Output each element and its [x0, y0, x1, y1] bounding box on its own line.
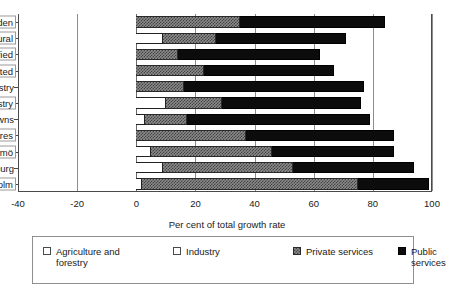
bar-segment-pub — [216, 33, 346, 44]
bar-segment-ind — [136, 97, 166, 108]
gridline-100 — [432, 14, 433, 191]
category-label: Gothenbourg — [0, 162, 16, 173]
bar-segment-pub — [272, 146, 393, 157]
bar-segment-ind — [136, 162, 163, 173]
legend-label: Industry — [186, 246, 220, 257]
bar-row: Regional centres — [18, 127, 432, 143]
category-label: Small scale industry — [0, 96, 16, 109]
chart-root: Average SwedenRuralSmall and diversified… — [0, 0, 454, 292]
category-label: Small and diversified — [0, 48, 16, 61]
x-tick-label--20: -20 — [70, 198, 84, 209]
stacked-bar — [136, 33, 346, 44]
x-tick-label-100: 100 — [424, 198, 440, 209]
legend-items: Agriculture and forestryIndustryPrivate … — [33, 237, 413, 283]
bar-segment-priv — [145, 114, 186, 125]
legend-item-pub[interactable]: Public services — [398, 246, 446, 268]
pub-swatch-icon — [398, 247, 406, 255]
bar-segment-priv — [151, 146, 272, 157]
category-label: Stockholm — [0, 177, 16, 190]
agri-swatch-icon — [43, 247, 51, 255]
bar-row: Large scale industry — [18, 79, 432, 95]
x-tick-label-20: 20 — [190, 198, 201, 209]
bar-segment-pub — [178, 49, 320, 60]
bar-rows: Average SwedenRuralSmall and diversified… — [18, 14, 432, 191]
bar-segment-pub — [222, 97, 361, 108]
stacked-bar — [136, 97, 361, 108]
bar-segment-priv — [136, 130, 245, 141]
category-label: Average Sweden — [0, 16, 16, 29]
chart-legend: Agriculture and forestryIndustryPrivate … — [32, 236, 414, 284]
x-tick-label--40: -40 — [11, 198, 25, 209]
bar-row: Average Sweden — [18, 14, 432, 30]
x-axis-tick-labels: -40-20020406080100 — [18, 198, 432, 214]
plot-area: Average SwedenRuralSmall and diversified… — [18, 14, 432, 192]
legend-label: Public services — [411, 246, 446, 268]
bar-segment-priv — [163, 33, 216, 44]
priv-swatch-icon — [293, 247, 301, 255]
bar-row: Malmö — [18, 143, 432, 159]
stacked-bar — [136, 49, 319, 60]
bar-segment-priv — [163, 162, 293, 173]
x-tick-label-0: 0 — [134, 198, 139, 209]
category-label: Large scale industry — [0, 81, 16, 92]
stacked-bar — [136, 114, 370, 125]
ind-swatch-icon — [173, 247, 181, 255]
bar-segment-priv — [136, 65, 204, 76]
bar-segment-pub — [204, 65, 334, 76]
bar-segment-priv — [136, 16, 240, 27]
category-label: Malmö — [0, 145, 16, 158]
bar-row: Stockholm — [18, 176, 432, 192]
x-tick-label-60: 60 — [308, 198, 319, 209]
bar-segment-priv — [142, 178, 358, 189]
category-label: Rural — [0, 32, 16, 45]
x-axis-title: Per cent of total growth rate — [0, 219, 454, 230]
bar-segment-priv — [136, 81, 183, 92]
legend-item-agri[interactable]: Agriculture and forestry — [43, 246, 128, 268]
stacked-bar — [136, 65, 334, 76]
legend-label: Private services — [306, 246, 373, 257]
legend-item-priv[interactable]: Private services — [293, 246, 373, 257]
stacked-bar — [136, 81, 364, 92]
stacked-bar — [136, 178, 429, 189]
stacked-bar — [136, 130, 393, 141]
x-tick-label-80: 80 — [368, 198, 379, 209]
stacked-bar — [136, 162, 414, 173]
bar-row: Sparsely populated — [18, 63, 432, 79]
category-label: Regional centres — [0, 129, 16, 142]
bar-row: Small scale industry — [18, 95, 432, 111]
bar-segment-priv — [166, 97, 222, 108]
bar-row: Small and diversified — [18, 46, 432, 62]
bar-segment-pub — [246, 130, 394, 141]
x-tick-label-40: 40 — [249, 198, 260, 209]
bar-row: Gothenbourg — [18, 160, 432, 176]
category-label: Sparsely populated — [0, 64, 16, 77]
bar-row: One company towns — [18, 111, 432, 127]
bar-segment-pub — [184, 81, 364, 92]
legend-label: Agriculture and forestry — [56, 246, 128, 268]
category-label: One company towns — [0, 114, 16, 125]
bar-segment-priv — [136, 49, 177, 60]
bar-segment-ind — [136, 146, 151, 157]
bar-segment-ind — [136, 33, 163, 44]
legend-item-ind[interactable]: Industry — [173, 246, 220, 257]
bar-row: Rural — [18, 30, 432, 46]
stacked-bar — [136, 146, 393, 157]
bar-segment-pub — [240, 16, 385, 27]
bar-segment-pub — [358, 178, 429, 189]
bar-segment-pub — [187, 114, 370, 125]
stacked-bar — [136, 16, 384, 27]
bar-segment-pub — [293, 162, 414, 173]
bar-segment-ind — [136, 114, 145, 125]
